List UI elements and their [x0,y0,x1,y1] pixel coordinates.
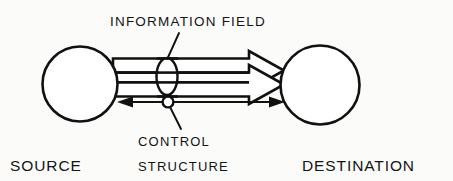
leader-line-control-structure [170,107,181,129]
arrow-overlap-mask [114,74,248,82]
leader-line-information-field [168,33,180,59]
information-field-marker-icon [157,58,178,95]
arrowhead-left-icon [117,97,133,108]
label-destination: DESTINATION [302,157,415,174]
node-destination [281,46,360,125]
label-control-line1: CONTROL [138,134,210,149]
information-field-diagram: INFORMATION FIELD CONTROL STRUCTURE SOUR… [0,0,453,181]
label-information-field: INFORMATION FIELD [110,14,266,29]
node-source [43,47,118,122]
diagram-canvas: INFORMATION FIELD CONTROL STRUCTURE SOUR… [0,0,453,181]
control-structure-marker-icon [163,97,174,108]
label-source: SOURCE [10,157,82,174]
label-control-line2: STRUCTURE [138,159,229,174]
